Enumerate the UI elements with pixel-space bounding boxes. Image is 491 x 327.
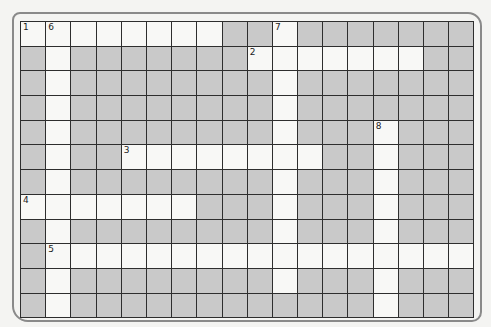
- crossword-block: [223, 47, 248, 72]
- crossword-block: [449, 121, 474, 146]
- crossword-cell[interactable]: [46, 145, 71, 170]
- crossword-cell[interactable]: [424, 244, 449, 269]
- crossword-cell[interactable]: [374, 145, 399, 170]
- crossword-cell[interactable]: [273, 244, 298, 269]
- crossword-cell[interactable]: [172, 22, 197, 47]
- crossword-cell[interactable]: [71, 22, 96, 47]
- crossword-cell[interactable]: [71, 244, 96, 269]
- clue-number: 6: [48, 22, 54, 33]
- crossword-cell[interactable]: [172, 145, 197, 170]
- crossword-cell[interactable]: [273, 145, 298, 170]
- crossword-block: [449, 195, 474, 220]
- crossword-cell[interactable]: [248, 244, 273, 269]
- crossword-block: [449, 294, 474, 319]
- crossword-cell[interactable]: [374, 195, 399, 220]
- crossword-cell[interactable]: [323, 244, 348, 269]
- crossword-block: [399, 121, 424, 146]
- crossword-cell[interactable]: [374, 294, 399, 319]
- crossword-cell[interactable]: [399, 244, 424, 269]
- crossword-cell[interactable]: [197, 22, 222, 47]
- crossword-cell[interactable]: [122, 195, 147, 220]
- crossword-block: [21, 121, 46, 146]
- crossword-cell[interactable]: [223, 244, 248, 269]
- crossword-cell[interactable]: [46, 269, 71, 294]
- crossword-cell[interactable]: [374, 47, 399, 72]
- crossword-cell[interactable]: [71, 195, 96, 220]
- crossword-cell[interactable]: [273, 71, 298, 96]
- crossword-cell[interactable]: [374, 170, 399, 195]
- crossword-cell[interactable]: [374, 220, 399, 245]
- crossword-cell[interactable]: 1: [21, 22, 46, 47]
- crossword-cell[interactable]: [374, 269, 399, 294]
- crossword-block: [197, 269, 222, 294]
- crossword-block: [71, 96, 96, 121]
- crossword-block: [374, 22, 399, 47]
- clue-number: 4: [23, 195, 29, 206]
- crossword-cell[interactable]: [273, 220, 298, 245]
- crossword-cell[interactable]: [172, 244, 197, 269]
- crossword-cell[interactable]: [449, 244, 474, 269]
- crossword-block: [223, 220, 248, 245]
- crossword-block: [273, 294, 298, 319]
- crossword-cell[interactable]: 8: [374, 121, 399, 146]
- crossword-cell[interactable]: 5: [46, 244, 71, 269]
- crossword-cell[interactable]: [46, 220, 71, 245]
- crossword-cell[interactable]: [46, 71, 71, 96]
- crossword-cell[interactable]: [374, 244, 399, 269]
- crossword-cell[interactable]: [46, 294, 71, 319]
- crossword-cell[interactable]: [97, 195, 122, 220]
- crossword-cell[interactable]: [46, 47, 71, 72]
- crossword-block: [323, 96, 348, 121]
- crossword-cell[interactable]: [273, 170, 298, 195]
- crossword-block: [97, 170, 122, 195]
- crossword-cell[interactable]: [147, 145, 172, 170]
- crossword-cell[interactable]: [273, 269, 298, 294]
- crossword-block: [248, 195, 273, 220]
- crossword-block: [122, 71, 147, 96]
- crossword-cell[interactable]: [147, 22, 172, 47]
- crossword-block: [172, 220, 197, 245]
- crossword-block: [197, 294, 222, 319]
- crossword-cell[interactable]: [273, 47, 298, 72]
- crossword-cell[interactable]: [197, 145, 222, 170]
- crossword-cell[interactable]: [147, 195, 172, 220]
- crossword-block: [197, 121, 222, 146]
- crossword-block: [449, 170, 474, 195]
- crossword-cell[interactable]: [348, 244, 373, 269]
- crossword-block: [147, 96, 172, 121]
- crossword-cell[interactable]: [122, 244, 147, 269]
- crossword-cell[interactable]: [147, 244, 172, 269]
- crossword-block: [449, 47, 474, 72]
- crossword-cell[interactable]: [223, 145, 248, 170]
- crossword-cell[interactable]: [298, 244, 323, 269]
- crossword-cell[interactable]: [273, 195, 298, 220]
- crossword-cell[interactable]: 4: [21, 195, 46, 220]
- crossword-cell[interactable]: [273, 121, 298, 146]
- crossword-cell[interactable]: [172, 195, 197, 220]
- crossword-cell[interactable]: [122, 22, 147, 47]
- crossword-block: [449, 71, 474, 96]
- crossword-cell[interactable]: 7: [273, 22, 298, 47]
- crossword-cell[interactable]: [248, 145, 273, 170]
- crossword-cell[interactable]: [298, 47, 323, 72]
- crossword-cell[interactable]: [399, 47, 424, 72]
- crossword-cell[interactable]: [298, 145, 323, 170]
- crossword-cell[interactable]: 6: [46, 22, 71, 47]
- crossword-cell[interactable]: [197, 244, 222, 269]
- crossword-cell[interactable]: [348, 47, 373, 72]
- crossword-cell[interactable]: [97, 244, 122, 269]
- crossword-cell[interactable]: [46, 195, 71, 220]
- crossword-block: [248, 121, 273, 146]
- crossword-cell[interactable]: [273, 96, 298, 121]
- crossword-cell[interactable]: [46, 170, 71, 195]
- crossword-block: [97, 71, 122, 96]
- crossword-cell[interactable]: 2: [248, 47, 273, 72]
- crossword-cell[interactable]: [97, 22, 122, 47]
- crossword-block: [71, 47, 96, 72]
- crossword-cell[interactable]: [46, 121, 71, 146]
- crossword-block: [424, 170, 449, 195]
- crossword-cell[interactable]: [46, 96, 71, 121]
- crossword-block: [248, 170, 273, 195]
- crossword-cell[interactable]: 3: [122, 145, 147, 170]
- crossword-cell[interactable]: [323, 47, 348, 72]
